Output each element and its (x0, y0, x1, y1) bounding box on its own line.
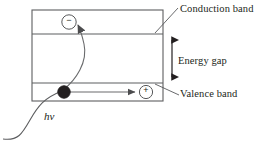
energy-gap-label: Energy gap (178, 55, 227, 67)
electron-minus-sign: − (62, 16, 76, 25)
valence-band-label: Valence band (180, 88, 237, 100)
band-diagram-canvas (0, 0, 267, 143)
conduction-band-label: Conduction band (180, 3, 254, 15)
electron-transition-arrow (63, 25, 85, 90)
band-diagram-figure: − + Conduction band Energy gap Valence b… (0, 0, 267, 143)
hole-plus-sign: + (139, 86, 153, 95)
valence-band-leader-line (155, 84, 179, 95)
photon-energy-label: hv (44, 110, 55, 122)
conduction-band-leader-line (155, 8, 178, 33)
electron-dot-icon (58, 86, 70, 98)
